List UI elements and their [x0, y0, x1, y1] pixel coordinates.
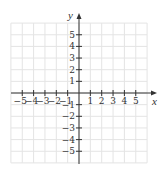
y-tick-label: −5 [62, 146, 76, 156]
y-tick-label: 2 [69, 65, 75, 75]
y-tick-label: −2 [62, 111, 75, 121]
y-tick-label: 5 [69, 30, 75, 40]
x-tick-label: 2 [99, 96, 105, 106]
y-tick-label: 1 [69, 76, 75, 86]
y-tick-label: 4 [69, 41, 75, 51]
x-tick-label: 5 [133, 96, 139, 106]
y-axis-arrow-icon [77, 13, 82, 19]
x-tick-label: 1 [87, 96, 93, 106]
y-tick-label: −1 [62, 100, 75, 110]
axes [11, 13, 157, 164]
x-axis-label: x [151, 95, 157, 107]
x-axis-ticks: −5−4−3−2−112345 [14, 90, 139, 106]
y-tick-label: −3 [62, 123, 76, 133]
coordinate-plane: −5−4−3−2−112345 54321−1−2−3−4−5 x y [0, 0, 163, 174]
y-axis-label: y [67, 9, 73, 21]
x-tick-label: 4 [122, 96, 128, 106]
y-tick-label: 3 [69, 53, 75, 63]
x-tick-label: 3 [110, 96, 116, 106]
y-tick-label: −4 [62, 135, 76, 145]
